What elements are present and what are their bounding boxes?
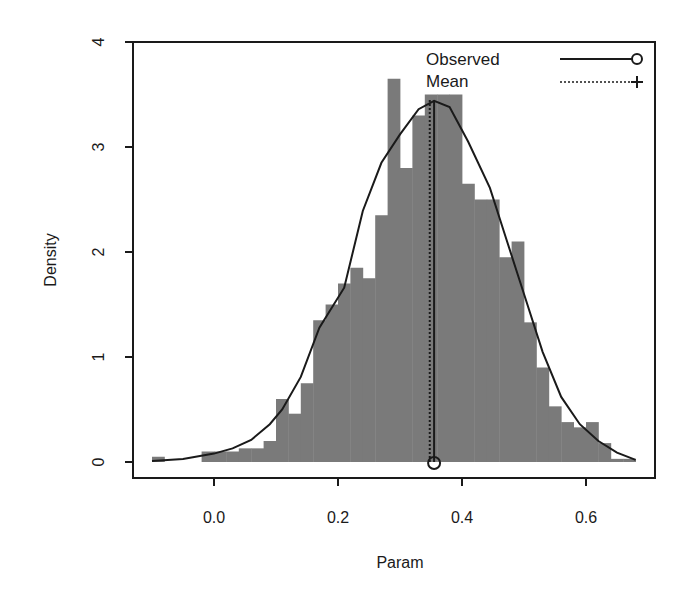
x-axis: 0.00.20.40.6 xyxy=(203,478,597,526)
histogram-bar xyxy=(400,168,413,462)
histogram-bar xyxy=(288,414,301,462)
histogram-bar xyxy=(499,257,512,462)
x-tick-label: 0.0 xyxy=(203,509,225,526)
histogram-bar xyxy=(425,95,438,463)
histogram-bar xyxy=(350,268,363,462)
legend-plus-icon xyxy=(631,76,643,88)
histogram-bar xyxy=(226,452,239,463)
histogram-bar xyxy=(338,284,351,463)
x-tick-label: 0.2 xyxy=(327,509,349,526)
y-tick-label: 3 xyxy=(90,142,107,151)
histogram-bar xyxy=(462,184,475,462)
y-tick-label: 1 xyxy=(90,352,107,361)
histogram-bar xyxy=(251,448,264,462)
legend-label-mean: Mean xyxy=(426,72,469,91)
histogram-bar xyxy=(412,116,425,463)
histogram-bars xyxy=(152,79,636,462)
histogram-bar xyxy=(363,278,376,462)
histogram-bar xyxy=(437,95,450,463)
y-tick-label: 2 xyxy=(90,247,107,256)
histogram-bar xyxy=(561,422,574,462)
histogram-bar xyxy=(586,422,599,462)
histogram-bar xyxy=(474,200,487,463)
y-axis: 01234 xyxy=(90,37,133,466)
histogram-bar xyxy=(487,200,500,463)
histogram-bar xyxy=(536,368,549,463)
histogram-bar xyxy=(375,215,388,462)
histogram-bar xyxy=(611,459,624,462)
legend-label-observed: Observed xyxy=(426,50,500,69)
histogram-bar xyxy=(574,427,587,462)
histogram-bar xyxy=(239,448,252,462)
legend: Observed Mean xyxy=(426,50,643,91)
x-axis-label: Param xyxy=(376,554,423,571)
legend-circle-icon xyxy=(632,54,642,64)
y-tick-label: 4 xyxy=(90,37,107,46)
histogram-bar xyxy=(450,95,463,463)
histogram-bar xyxy=(264,441,277,462)
histogram-bar xyxy=(326,305,339,463)
y-tick-label: 0 xyxy=(90,457,107,466)
histogram-chart: 0.00.20.40.6 01234 Param Density Observe… xyxy=(0,0,691,603)
x-tick-label: 0.4 xyxy=(451,509,473,526)
histogram-bar xyxy=(524,322,537,462)
y-axis-label: Density xyxy=(42,233,59,286)
histogram-bar xyxy=(549,406,562,462)
histogram-bar xyxy=(301,383,314,462)
x-tick-label: 0.6 xyxy=(575,509,597,526)
